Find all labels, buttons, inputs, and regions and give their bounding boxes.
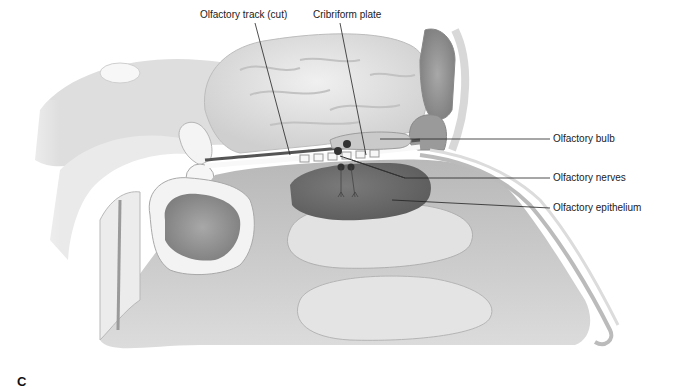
- label-olfactory-track: Olfactory track (cut): [200, 9, 287, 21]
- nasal-cavity-illustration: [0, 0, 681, 389]
- anatomy-figure: Olfactory track (cut) Cribriform plate O…: [0, 0, 681, 389]
- panel-letter: C: [17, 374, 26, 389]
- label-olfactory-bulb: Olfactory bulb: [553, 133, 615, 145]
- label-cribriform-plate: Cribriform plate: [313, 9, 381, 21]
- olfactory-epithelium: [290, 163, 431, 220]
- label-olfactory-nerves: Olfactory nerves: [553, 172, 626, 184]
- label-olfactory-epithelium: Olfactory epithelium: [553, 202, 641, 214]
